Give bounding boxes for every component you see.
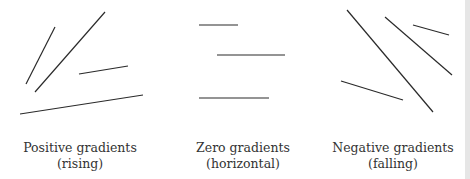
gradient-line xyxy=(79,66,128,74)
caption-title: Positive gradients xyxy=(10,140,150,156)
caption-title: Negative gradients xyxy=(323,140,463,156)
caption-subtitle: (rising) xyxy=(10,156,150,172)
positive-gradient-lines xyxy=(20,12,143,114)
page-edge-strip xyxy=(465,0,470,179)
gradient-line xyxy=(347,10,433,112)
negative-gradients-caption: Negative gradients (falling) xyxy=(323,140,463,172)
zero-gradients-caption: Zero gradients (horizontal) xyxy=(173,140,313,172)
positive-gradients-caption: Positive gradients (rising) xyxy=(10,140,150,172)
caption-subtitle: (falling) xyxy=(323,156,463,172)
gradient-line xyxy=(20,95,143,114)
gradient-line xyxy=(341,81,403,100)
zero-gradient-lines xyxy=(199,25,285,98)
gradient-line xyxy=(35,12,105,92)
gradient-line xyxy=(413,25,449,35)
gradient-line xyxy=(26,27,55,84)
negative-gradient-lines xyxy=(341,10,452,112)
caption-subtitle: (horizontal) xyxy=(173,156,313,172)
caption-title: Zero gradients xyxy=(173,140,313,156)
